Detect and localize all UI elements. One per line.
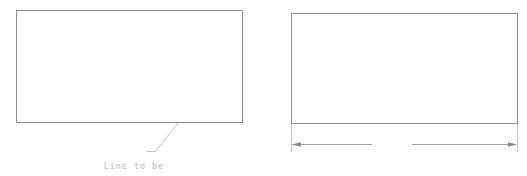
- right-figure-geometry: [265, 0, 527, 176]
- dimension-arrowhead-left: [292, 142, 302, 147]
- figure-after: 112: [265, 0, 527, 176]
- cad-drawing-canvas: Line to be selected 112: [0, 0, 527, 176]
- figure-before: Line to be selected: [0, 0, 265, 176]
- dimension-arrowhead-right: [508, 142, 518, 147]
- leader-note-line1: Line to be: [86, 161, 164, 171]
- dimensioned-rectangle[interactable]: [292, 14, 518, 124]
- leader-note-text: Line to be selected: [86, 141, 164, 176]
- source-rectangle[interactable]: [17, 11, 243, 123]
